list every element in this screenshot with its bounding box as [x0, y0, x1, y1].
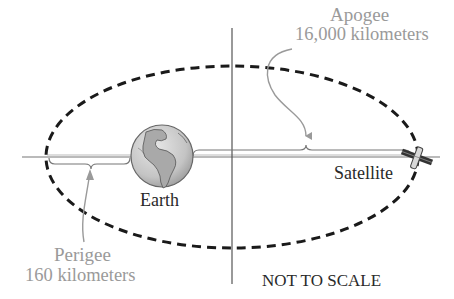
not-to-scale-note: NOT TO SCALE — [262, 272, 381, 289]
perigee-title-label: Perigee — [54, 245, 111, 264]
apogee-title-label: Apogee — [330, 5, 389, 24]
perigee-brace — [49, 158, 130, 169]
apogee-brace — [193, 145, 411, 156]
perigee-value-label: 160 kilometers — [25, 266, 135, 285]
apogee-value-label: 16,000 kilometers — [295, 25, 429, 44]
earth-globe-icon — [131, 125, 193, 188]
satellite-label: Satellite — [334, 164, 393, 182]
earth-label: Earth — [140, 191, 179, 209]
apogee-arrow — [267, 49, 306, 136]
perigee-arrow — [83, 172, 90, 242]
